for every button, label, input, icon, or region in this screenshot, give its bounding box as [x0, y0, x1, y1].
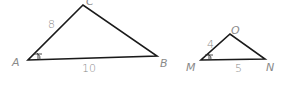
- vertex-a-label: A: [11, 56, 20, 69]
- side-mn-label: 5: [235, 62, 242, 75]
- angle-a-mark: [34, 54, 42, 59]
- vertex-c-label: C: [86, 0, 94, 8]
- triangle-abc-outline: [28, 5, 157, 60]
- triangle-mon: M O N 4 5: [186, 24, 274, 75]
- similar-triangles-diagram: A B C 8 10 M O N 4 5: [0, 0, 285, 89]
- vertex-n-label: N: [266, 61, 274, 74]
- vertex-o-label: O: [231, 24, 240, 37]
- side-mo-label: 4: [207, 38, 214, 51]
- vertex-m-label: M: [186, 61, 196, 74]
- side-ac-label: 8: [48, 18, 55, 31]
- side-ab-label: 10: [82, 62, 96, 75]
- triangle-abc: A B C 8 10: [11, 0, 168, 75]
- vertex-b-label: B: [160, 57, 168, 70]
